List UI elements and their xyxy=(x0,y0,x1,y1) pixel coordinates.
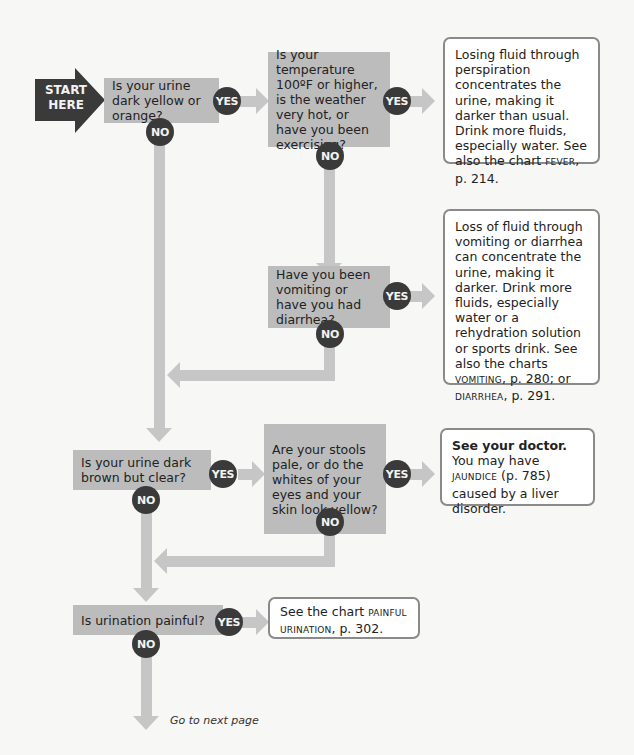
question-text: Are your stools pale, or do the whites o… xyxy=(272,442,378,517)
question-q3: Have you been vomiting or have you had d… xyxy=(268,266,390,328)
no-badge: NO xyxy=(316,508,344,536)
chart-reference-link[interactable]: VOMITING xyxy=(455,375,502,385)
question-q1: Is your urine dark yellow or orange? xyxy=(104,78,219,123)
start-here-arrow: START HERE xyxy=(35,68,105,133)
answer-a4: See the chart PAINFUL URINATION, p. 302. xyxy=(268,597,420,639)
arrowhead-down-icon xyxy=(133,716,159,730)
arrowhead-right-icon xyxy=(422,461,435,487)
arrowhead-left-icon xyxy=(167,362,180,388)
answer-a2: Loss of fluid through vomiting or diarrh… xyxy=(443,209,600,385)
yes-badge: YES xyxy=(213,87,241,115)
arrowhead-right-icon xyxy=(422,283,435,309)
arrowhead-right-icon xyxy=(422,88,435,114)
page-reference: , p. 302. xyxy=(331,621,383,636)
connector-q5-no-left xyxy=(167,556,335,567)
connector-q6-no xyxy=(141,650,152,718)
answer-text: Losing fluid through perspiration concen… xyxy=(455,47,587,168)
start-label-line1: START xyxy=(37,83,95,98)
yes-badge: YES xyxy=(383,87,411,115)
no-badge: NO xyxy=(146,118,174,146)
connector-q3-no-left xyxy=(180,370,335,381)
no-badge: NO xyxy=(132,630,160,658)
see-doctor-label: See your doctor. xyxy=(452,438,567,453)
connector-q1-yes xyxy=(238,96,258,107)
answer-text: You may have xyxy=(452,453,539,468)
chart-reference-link[interactable]: DIARRHEA xyxy=(455,392,503,402)
start-label-line2: HERE xyxy=(37,98,95,113)
question-text: Is your temperature 100ºF or higher, is … xyxy=(276,47,382,152)
question-text: Is your urine dark yellow or orange? xyxy=(112,78,211,123)
arrowhead-left-icon xyxy=(154,548,167,574)
connector-q4-no xyxy=(141,510,152,590)
go-to-next-page-label: Go to next page xyxy=(170,714,259,727)
answer-text: Loss of fluid through vomiting or diarrh… xyxy=(455,219,583,371)
connector-q1-no xyxy=(154,140,165,430)
start-label: START HERE xyxy=(37,83,95,113)
answer-text: See the chart xyxy=(280,604,368,619)
question-q2: Is your temperature 100ºF or higher, is … xyxy=(268,52,390,147)
question-q4: Is your urine dark brown but clear? xyxy=(73,450,211,490)
yes-badge: YES xyxy=(209,460,237,488)
answer-a1: Losing fluid through perspiration concen… xyxy=(443,37,600,164)
page-reference: , p. 291. xyxy=(503,388,555,403)
arrowhead-down-icon xyxy=(146,428,172,442)
chart-reference-link[interactable]: FEVER xyxy=(545,157,575,167)
answer-a3: See your doctor. You may have JAUNDICE (… xyxy=(440,428,595,506)
question-text: Is your urine dark brown but clear? xyxy=(81,455,203,485)
connector-q2-no xyxy=(324,165,335,265)
yes-badge: YES xyxy=(383,282,411,310)
arrowhead-down-icon xyxy=(133,588,159,602)
no-badge: NO xyxy=(132,486,160,514)
no-badge: NO xyxy=(316,142,344,170)
question-text: Have you been vomiting or have you had d… xyxy=(276,267,382,327)
chart-reference-link[interactable]: JAUNDICE xyxy=(452,472,497,482)
no-badge: NO xyxy=(316,320,344,348)
yes-badge: YES xyxy=(383,460,411,488)
question-text: Is urination painful? xyxy=(81,613,205,628)
yes-badge: YES xyxy=(215,608,243,636)
page-reference: , p. 280; or xyxy=(502,371,571,386)
